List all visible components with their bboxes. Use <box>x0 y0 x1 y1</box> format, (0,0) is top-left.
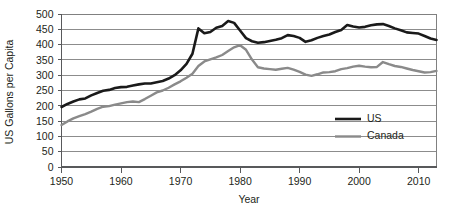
y-tick-label: 200 <box>36 100 54 112</box>
chart-container: 050100150200250300350400450500 195019601… <box>0 0 449 217</box>
y-tick-label: 250 <box>36 84 54 96</box>
x-tick-label: 1980 <box>228 175 252 187</box>
gridlines <box>62 14 437 167</box>
x-tick-label: 2000 <box>347 175 371 187</box>
y-tick-label: 450 <box>36 23 54 35</box>
y-tick-label: 500 <box>36 8 54 20</box>
y-tick-label: 400 <box>36 38 54 50</box>
legend-label-us: US <box>367 112 382 124</box>
y-tick-labels: 050100150200250300350400450500 <box>36 8 54 173</box>
line-chart: 050100150200250300350400450500 195019601… <box>0 0 449 217</box>
chart-legend: USCanada <box>335 112 404 142</box>
y-tick-label: 0 <box>48 161 54 173</box>
x-tick-label: 1990 <box>288 175 312 187</box>
legend-label-canada: Canada <box>367 129 404 141</box>
x-tick-label: 1960 <box>109 175 133 187</box>
y-tick-label: 100 <box>36 130 54 142</box>
y-tick-label: 300 <box>36 69 54 81</box>
y-tick-label: 150 <box>36 115 54 127</box>
x-tick-label: 1950 <box>50 175 74 187</box>
x-tick-labels: 1950196019701980199020002010 <box>50 175 431 187</box>
y-tick-label: 350 <box>36 54 54 66</box>
x-axis <box>62 167 437 173</box>
y-axis <box>58 14 62 173</box>
y-tick-label: 50 <box>42 145 54 157</box>
data-series <box>62 21 437 125</box>
y-axis-title: US Gallons per Capita <box>3 40 15 145</box>
x-axis-title: Year <box>238 193 260 205</box>
x-tick-label: 1970 <box>169 175 193 187</box>
x-tick-label: 2010 <box>407 175 431 187</box>
